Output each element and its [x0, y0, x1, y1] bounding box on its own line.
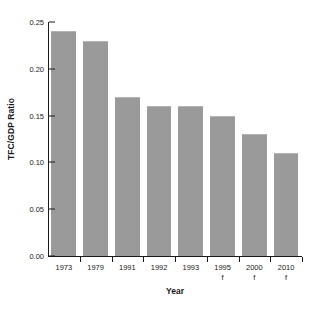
x-tick-label-year: 2010	[278, 263, 295, 272]
y-tick-mark	[49, 162, 55, 163]
x-tick-label-forecast-marker: f	[239, 273, 271, 283]
bar	[147, 106, 172, 256]
x-tick-label-forecast-marker: f	[270, 273, 302, 283]
x-tick-label: 1993	[175, 263, 207, 273]
y-tick-label: 0.25	[29, 18, 44, 27]
bar	[83, 41, 108, 256]
x-tick-label-forecast-marker: f	[207, 273, 239, 283]
x-tick-mark	[175, 257, 176, 262]
x-tick-mark	[80, 257, 81, 262]
x-tick-mark	[239, 257, 240, 262]
y-tick-mark	[49, 22, 55, 23]
x-tick-label: 1991	[112, 263, 144, 273]
y-tick-label: 0.20	[29, 64, 44, 73]
x-tick-label-year: 2000	[246, 263, 263, 272]
x-tick-label-year: 1991	[119, 263, 136, 272]
x-tick-mark	[302, 257, 303, 262]
y-tick-mark	[49, 209, 55, 210]
x-tick-label: 1995f	[207, 263, 239, 283]
bar	[51, 31, 76, 256]
bar	[115, 97, 140, 256]
x-tick-label: 2010f	[270, 263, 302, 283]
y-axis-tick-labels: 0.000.050.100.150.200.25	[14, 0, 44, 260]
x-tick-label: 1979	[80, 263, 112, 273]
bar	[274, 153, 299, 256]
y-tick-mark	[49, 256, 55, 257]
y-tick-label: 0.00	[29, 252, 44, 261]
bar	[178, 106, 203, 256]
bar	[210, 116, 235, 256]
bar-chart: TFC/GDP Ratio 0.000.050.100.150.200.25 1…	[0, 0, 318, 314]
x-tick-label-year: 1995	[214, 263, 231, 272]
y-tick-label: 0.05	[29, 205, 44, 214]
x-tick-mark	[270, 257, 271, 262]
x-tick-mark	[112, 257, 113, 262]
x-tick-mark	[143, 257, 144, 262]
x-tick-label: 1973	[48, 263, 80, 273]
bar	[242, 134, 267, 256]
y-tick-mark	[49, 115, 55, 116]
x-tick-label-year: 1973	[56, 263, 73, 272]
y-tick-mark	[49, 68, 55, 69]
x-tick-label-year: 1979	[87, 263, 104, 272]
x-tick-mark	[207, 257, 208, 262]
x-tick-label-year: 1992	[151, 263, 168, 272]
x-axis-title: Year	[48, 286, 302, 296]
y-tick-label: 0.10	[29, 158, 44, 167]
x-tick-label: 2000f	[239, 263, 271, 283]
x-tick-label: 1992	[143, 263, 175, 273]
bars-layer	[48, 22, 302, 256]
y-tick-label: 0.15	[29, 111, 44, 120]
x-tick-label-year: 1993	[183, 263, 200, 272]
